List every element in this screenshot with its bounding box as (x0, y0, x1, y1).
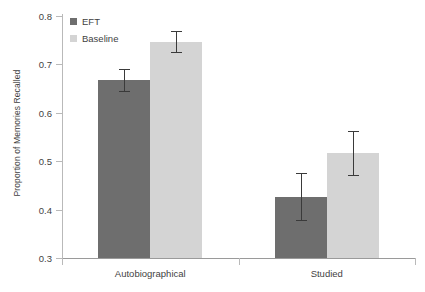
x-axis-separator (239, 258, 240, 265)
error-bar-cap-lower (296, 220, 307, 221)
error-bar-cap-upper (119, 69, 130, 70)
y-axis-label: 0.5 (12, 156, 52, 167)
x-axis-separator (415, 258, 416, 265)
error-bar-cap-upper (171, 31, 182, 32)
legend-label: EFT (82, 16, 100, 27)
legend-item-baseline[interactable]: Baseline (70, 30, 118, 47)
error-bar-cap-lower (171, 52, 182, 53)
error-bar-cap-lower (119, 91, 130, 92)
error-bar (124, 69, 125, 90)
error-bar (353, 131, 354, 175)
legend-swatch-icon (70, 35, 77, 42)
x-axis-label-autobiographical: Autobiographical (115, 268, 186, 279)
y-axis-label: 0.8 (12, 11, 52, 22)
x-axis-separator (62, 258, 63, 265)
error-bar (176, 31, 177, 51)
legend-item-eft[interactable]: EFT (70, 13, 118, 30)
legend: EFTBaseline (70, 13, 118, 47)
y-axis-label: 0.3 (12, 253, 52, 264)
bar-baseline-autobiographical (150, 42, 202, 258)
plot-area (62, 16, 415, 258)
y-axis-label: 0.6 (12, 107, 52, 118)
bar-eft-autobiographical (98, 80, 150, 258)
legend-swatch-icon (70, 18, 77, 25)
error-bar-cap-upper (348, 131, 359, 132)
error-bar-cap-upper (296, 173, 307, 174)
error-bar (301, 173, 302, 219)
bar-chart: Proportion of Memories Recalled 0.80.70.… (0, 0, 425, 292)
legend-label: Baseline (82, 33, 118, 44)
y-axis-label: 0.7 (12, 59, 52, 70)
error-bar-cap-lower (348, 175, 359, 176)
x-axis-label-studied: Studied (311, 268, 343, 279)
y-axis-label: 0.4 (12, 204, 52, 215)
